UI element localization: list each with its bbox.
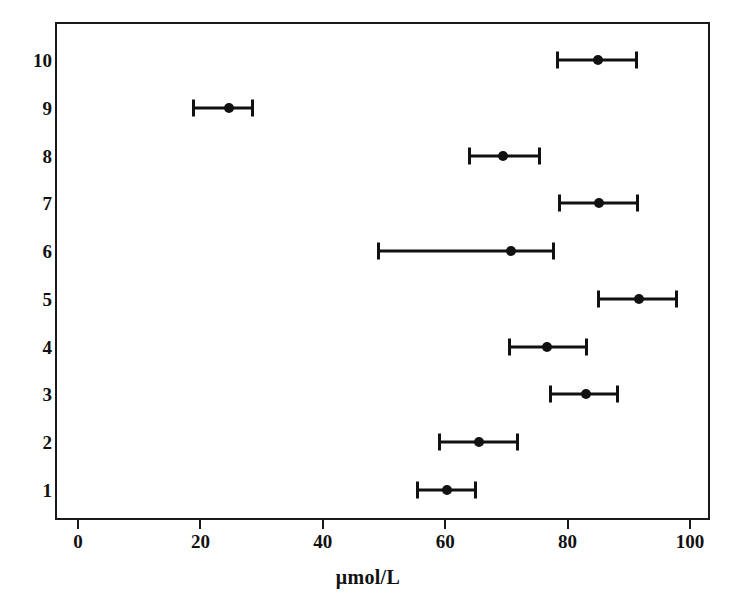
x-tick-mark-40 — [322, 520, 324, 529]
x-tick-label-20: 20 — [191, 532, 210, 551]
plot-area-frame — [55, 22, 710, 520]
y-tick-label-6: 6 — [10, 242, 52, 261]
x-tick-label-80: 80 — [558, 532, 577, 551]
x-tick-label-0: 0 — [73, 532, 83, 551]
x-tick-label-60: 60 — [436, 532, 455, 551]
y-tick-label-4: 4 — [10, 337, 52, 356]
y-tick-label-8: 8 — [10, 146, 52, 165]
error-bar-chart: 10987654321 020406080100 μmol/L — [0, 0, 736, 607]
y-tick-label-1: 1 — [10, 481, 52, 500]
y-axis-tick-labels: 10987654321 — [0, 22, 52, 520]
y-tick-label-3: 3 — [10, 385, 52, 404]
x-tick-label-40: 40 — [313, 532, 332, 551]
x-axis-tick-labels: 020406080100 — [55, 520, 710, 566]
y-tick-label-10: 10 — [10, 51, 52, 70]
x-tick-mark-20 — [199, 520, 201, 529]
x-axis-title: μmol/L — [0, 566, 736, 589]
y-tick-label-5: 5 — [10, 289, 52, 308]
y-tick-label-7: 7 — [10, 194, 52, 213]
y-tick-label-2: 2 — [10, 433, 52, 452]
x-tick-mark-60 — [444, 520, 446, 529]
y-tick-label-9: 9 — [10, 98, 52, 117]
x-tick-mark-100 — [689, 520, 691, 529]
x-tick-mark-80 — [567, 520, 569, 529]
x-tick-mark-0 — [77, 520, 79, 529]
x-tick-label-100: 100 — [676, 532, 705, 551]
